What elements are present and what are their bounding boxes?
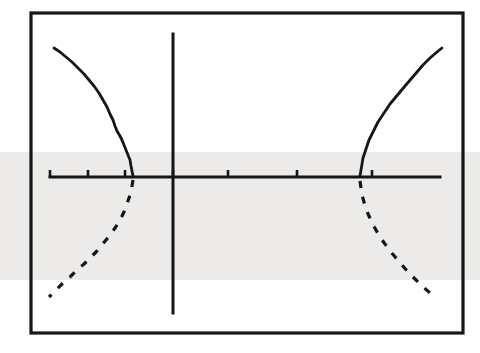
curve-right-upper-branch (360, 48, 442, 176)
figure-root (0, 0, 480, 353)
axes-group (50, 34, 440, 313)
curve-left-lower-branch (49, 180, 133, 297)
plot-canvas (0, 0, 480, 353)
plot-frame-border (31, 13, 463, 333)
curve-left-upper-branch (54, 48, 133, 176)
curve-right-lower-branch (360, 181, 435, 297)
curve-series-group (49, 48, 442, 297)
